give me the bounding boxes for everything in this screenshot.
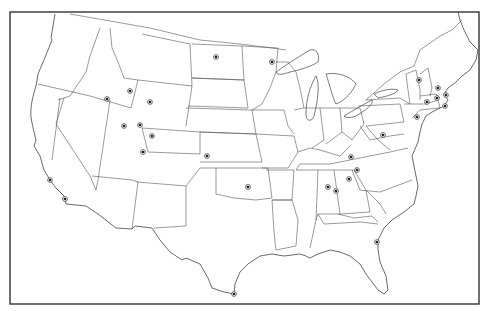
marker[interactable] [349,155,354,160]
marker[interactable] [105,97,110,102]
marker[interactable] [122,124,127,129]
marker[interactable] [128,89,133,94]
marker[interactable] [214,55,219,60]
marker[interactable] [232,292,237,297]
marker[interactable] [138,123,143,128]
marker[interactable] [417,78,422,83]
marker[interactable] [63,197,68,202]
us-map [0,0,491,311]
marker[interactable] [425,100,430,105]
marker[interactable] [326,185,331,190]
marker[interactable] [436,86,441,91]
marker[interactable] [205,154,210,159]
marker[interactable] [347,177,352,182]
marker[interactable] [246,185,251,190]
marker[interactable] [355,168,360,173]
marker[interactable] [444,93,449,98]
marker[interactable] [415,115,420,120]
map-frame [10,12,479,304]
marker[interactable] [270,60,275,65]
marker[interactable] [148,100,153,105]
marker[interactable] [435,96,440,101]
marker[interactable] [443,104,448,109]
marker[interactable] [334,189,339,194]
marker[interactable] [381,133,386,138]
marker[interactable] [141,150,146,155]
marker[interactable] [150,134,155,139]
marker[interactable] [375,240,380,245]
marker[interactable] [48,178,53,183]
